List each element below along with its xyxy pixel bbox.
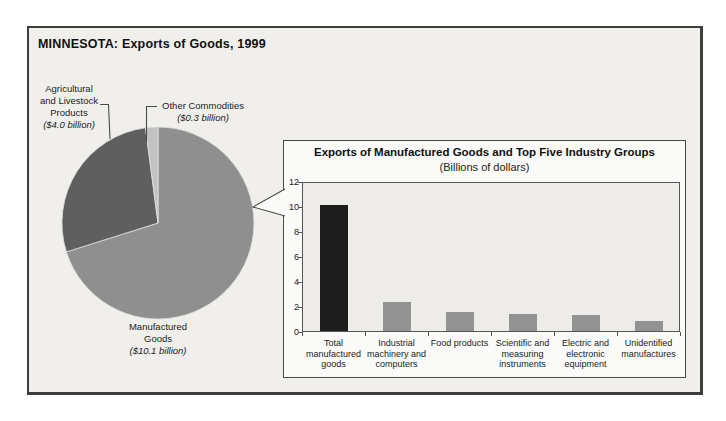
agricultural-value-label: ($4.0 billion) xyxy=(25,119,113,131)
y-tick-label-0: 0 xyxy=(283,327,299,338)
x-tick-mark xyxy=(428,332,429,336)
x-category-label-unidentified-manufactures: Unidentified manufactures xyxy=(615,338,682,359)
agricultural-label-line: Products xyxy=(25,107,113,119)
y-tick-mark xyxy=(298,232,302,233)
x-tick-mark xyxy=(491,332,492,336)
agricultural-slice-label: Agricultural and Livestock Products ($4.… xyxy=(25,83,113,131)
bar-unidentified-manufactures xyxy=(635,321,663,331)
page-title: MINNESOTA: Exports of Goods, 1999 xyxy=(38,37,266,51)
bar-chart-subtitle: (Billions of dollars) xyxy=(284,161,685,173)
callout-notch xyxy=(248,184,288,224)
y-tick-label-2: 2 xyxy=(283,302,299,313)
manufactured-goods-label-line: Manufactured xyxy=(112,321,204,333)
y-tick-mark xyxy=(298,207,302,208)
bar-chart-panel: Exports of Manufactured Goods and Top Fi… xyxy=(283,140,686,378)
x-category-label-scientific-and-measuring-instruments: Scientific and measuring instruments xyxy=(489,338,556,370)
x-category-label-total-manufactured-goods: Total manufactured goods xyxy=(300,338,367,370)
other-commodities-label-line: Other Commodities xyxy=(153,100,253,112)
bar-food-products xyxy=(446,312,474,331)
manufactured-goods-slice-label: Manufactured Goods ($10.1 billion) xyxy=(112,321,204,357)
y-tick-mark xyxy=(298,307,302,308)
bar-industrial-machinery-and-computers xyxy=(383,302,411,331)
manufactured-goods-value-label: ($10.1 billion) xyxy=(112,345,204,357)
manufactured-goods-label-line: Goods xyxy=(112,333,204,345)
x-tick-mark xyxy=(680,332,681,336)
bar-total-manufactured-goods xyxy=(320,205,348,331)
agricultural-label-line: Agricultural xyxy=(25,83,113,95)
other-commodities-value-label: ($0.3 billion) xyxy=(153,112,253,124)
y-tick-mark xyxy=(298,282,302,283)
y-tick-label-6: 6 xyxy=(283,252,299,263)
other-commodities-slice-label: Other Commodities ($0.3 billion) xyxy=(153,100,253,124)
x-tick-mark xyxy=(617,332,618,336)
x-tick-mark xyxy=(554,332,555,336)
y-tick-label-4: 4 xyxy=(283,277,299,288)
x-category-label-industrial-machinery-and-computers: Industrial machinery and computers xyxy=(363,338,430,370)
x-tick-mark xyxy=(302,332,303,336)
bar-electric-and-electronic-equipment xyxy=(572,315,600,331)
y-tick-mark xyxy=(298,257,302,258)
x-category-label-food-products: Food products xyxy=(426,338,493,349)
bar-scientific-and-measuring-instruments xyxy=(509,314,537,332)
x-tick-mark xyxy=(365,332,366,336)
agricultural-label-line: and Livestock xyxy=(25,95,113,107)
figure-page: MINNESOTA: Exports of Goods, 1999 Agricu… xyxy=(0,0,726,421)
y-tick-label-8: 8 xyxy=(283,227,299,238)
x-category-label-electric-and-electronic-equipment: Electric and electronic equipment xyxy=(552,338,619,370)
bar-chart-title: Exports of Manufactured Goods and Top Fi… xyxy=(284,146,685,158)
pie-slices-group xyxy=(62,127,254,319)
y-tick-mark xyxy=(298,182,302,183)
bar-chart-plot-area xyxy=(302,182,680,332)
